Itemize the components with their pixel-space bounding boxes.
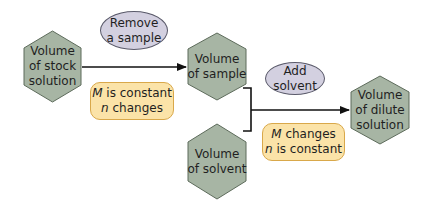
action-remove-sample: Remove a sample [100,11,168,50]
node-volume-of-solvent: Volume of solvent [187,123,247,200]
node-dilute-solution: Volume of dilute solution [350,75,410,145]
stock-line2: of stock [29,59,77,74]
sample-line1: Volume [187,52,246,67]
note1-var1: M [92,86,102,100]
stock-line1: Volume [29,44,77,59]
remove-line2: a sample [107,31,162,46]
solvent-line1: Volume [187,147,246,162]
dilute-line3: solution [355,118,404,133]
stock-line3: solution [29,74,77,89]
remove-line1: Remove [107,16,162,31]
note1-rest1: is constant [102,86,171,100]
note2-var1: M [271,127,281,141]
node-stock-solution: Volume of stock solution [23,30,82,103]
note-m-constant: M is constant n changes [90,82,174,120]
dilution-flow-diagram: Volume of stock solution Remove a sample… [0,0,432,202]
add-line1: Add [273,64,317,79]
add-line2: solvent [273,79,317,94]
dilute-line1: Volume [355,88,404,103]
action-add-solvent: Add solvent [265,62,325,95]
note2-var2: n [265,142,273,156]
node-volume-of-sample: Volume of sample [187,32,247,101]
note1-var2: n [101,101,109,115]
note2-rest1: changes [282,127,336,141]
dilute-line2: of dilute [355,103,404,118]
note2-rest2: is constant [273,142,342,156]
sample-line2: of sample [187,67,246,82]
solvent-line2: of solvent [187,162,246,177]
note1-rest2: changes [109,101,163,115]
note-m-changes: M changes n is constant [262,123,345,161]
